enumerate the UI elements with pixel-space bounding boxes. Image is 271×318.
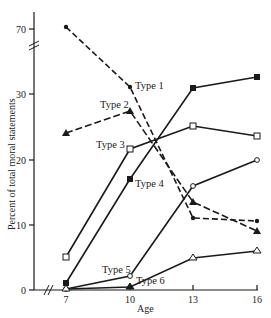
x-tick-13: 13 [188,294,198,305]
line-chart: 70 30 20 10 0 7 10 13 16 Age Percent of … [0,0,271,318]
x-axis-title: Age [137,303,154,314]
y-tick-20: 20 [16,155,26,166]
series-type-1 [64,25,259,223]
label-type-5: Type 5 [102,264,131,275]
x-tick-16: 16 [252,294,262,305]
x-tick-7: 7 [64,294,69,305]
y-tick-10: 10 [16,220,26,231]
label-type-1: Type 1 [135,80,164,91]
y-tick-0: 0 [21,285,26,296]
y-tick-30: 30 [16,89,26,100]
label-type-2: Type 2 [100,99,129,110]
x-tick-10: 10 [125,294,135,305]
y-tick-70: 70 [16,24,26,35]
y-axis [29,12,34,290]
y-axis-title: Percent of total moral statements [6,98,17,230]
label-type-4: Type 4 [135,178,164,189]
label-type-3: Type 3 [96,139,125,150]
label-type-6: Type 6 [136,275,165,286]
